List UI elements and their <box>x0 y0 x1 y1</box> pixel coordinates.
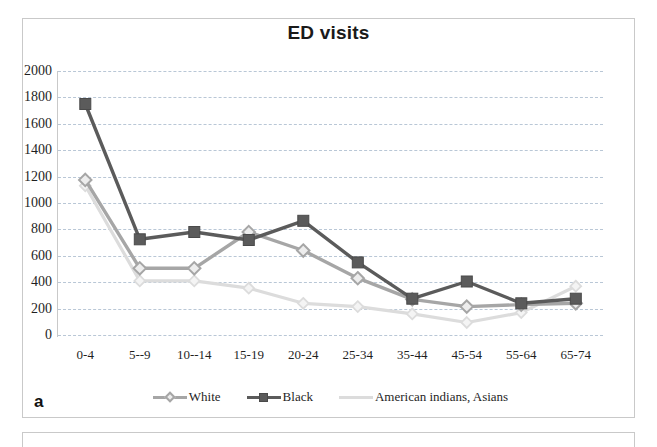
x-axis-tick-label: 25-34 <box>343 347 373 363</box>
y-axis-tick-labels: 2000180016001400120010008006004002000 <box>4 71 52 335</box>
data-point-marker-square <box>243 235 254 246</box>
series-lines <box>58 71 603 335</box>
y-axis-tick-label: 1400 <box>6 142 52 158</box>
legend-label: White <box>189 389 221 405</box>
data-point-marker <box>298 298 309 309</box>
chart-title: ED visits <box>0 22 657 44</box>
data-point-marker-diamond <box>461 300 473 312</box>
data-point-marker-square <box>134 234 145 245</box>
legend-swatch-icon <box>153 391 187 403</box>
y-axis-tick-label: 1800 <box>6 89 52 105</box>
legend-swatch-icon <box>247 391 281 403</box>
y-axis-tick-label: 0 <box>6 327 52 343</box>
x-axis-tick-label: 0-4 <box>77 347 94 363</box>
x-axis-tick-label: 55-64 <box>506 347 536 363</box>
legend-item-black[interactable]: Black <box>247 389 313 405</box>
x-axis-tick-label: 45-54 <box>452 347 482 363</box>
data-point-marker-square <box>570 293 581 304</box>
data-point-marker-diamond <box>297 244 309 256</box>
legend-swatch-icon <box>339 391 373 403</box>
data-point-marker-square <box>80 99 91 110</box>
data-point-marker-square <box>516 298 527 309</box>
data-point-marker-square <box>461 276 472 287</box>
legend-item-american-indians-asians[interactable]: American indians, Asians <box>339 389 508 405</box>
y-axis-tick-label: 1200 <box>6 169 52 185</box>
data-point-marker <box>570 281 581 292</box>
legend-label: Black <box>283 389 313 405</box>
y-axis-tick-label: 800 <box>6 221 52 237</box>
x-axis-tick-label: 10--14 <box>177 347 212 363</box>
data-point-marker <box>461 317 472 328</box>
y-axis-tick-label: 600 <box>6 248 52 264</box>
series-black <box>80 99 582 309</box>
data-point-marker <box>189 275 200 286</box>
series-line <box>85 186 576 323</box>
legend-item-white[interactable]: White <box>153 389 221 405</box>
x-axis-tick-label: 15-19 <box>234 347 264 363</box>
data-point-marker-square <box>352 257 363 268</box>
x-axis-tick-label: 5--9 <box>129 347 151 363</box>
data-point-marker <box>407 308 418 319</box>
data-point-marker-square <box>298 215 309 226</box>
y-axis-tick-label: 400 <box>6 274 52 290</box>
series-line <box>85 104 576 303</box>
data-point-marker <box>243 283 254 294</box>
legend-label: American indians, Asians <box>375 389 508 405</box>
data-point-marker-diamond <box>352 272 364 284</box>
x-axis-tick-label: 20-24 <box>288 347 318 363</box>
data-point-marker-square <box>407 293 418 304</box>
data-point-marker-square <box>189 227 200 238</box>
x-axis-tick-label: 35-44 <box>397 347 427 363</box>
y-axis-tick-label: 200 <box>6 301 52 317</box>
x-axis-tick-label: 65-74 <box>561 347 591 363</box>
y-axis-tick-label: 2000 <box>6 63 52 79</box>
next-panel-edge <box>22 432 635 447</box>
data-point-marker <box>352 301 363 312</box>
panel-letter: a <box>34 392 43 412</box>
plot-area <box>58 71 603 335</box>
y-axis-tick-label: 1000 <box>6 195 52 211</box>
gridline <box>58 335 603 336</box>
x-axis-tick-labels: 0-45--910--1415-1920-2425-3435-4445-5455… <box>58 347 603 367</box>
chart-legend: WhiteBlackAmerican indians, Asians <box>58 386 603 408</box>
y-axis-tick-label: 1600 <box>6 116 52 132</box>
